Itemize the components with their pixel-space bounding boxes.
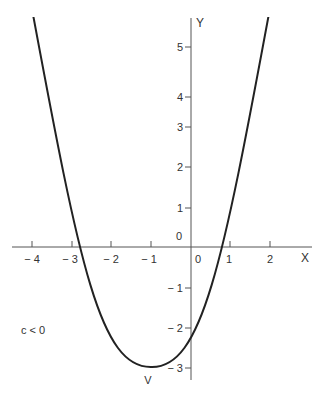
parabola-chart: − 4 − 3 − 2 − 1 1 2 0 5 4 3 2 1 0 − 1 − … — [0, 0, 322, 395]
x-tick-label: − 4 — [24, 253, 40, 265]
y-tick-label: 5 — [177, 41, 183, 53]
y-tick-label: − 2 — [167, 322, 183, 334]
x-tick-label: − 1 — [141, 253, 157, 265]
y-tick-label: 2 — [177, 161, 183, 173]
y-axis-label: Y — [196, 16, 204, 30]
x-ticks — [32, 241, 270, 247]
y-tick-label: 4 — [177, 91, 183, 103]
condition-label: c < 0 — [21, 324, 45, 336]
origin-label-upper: 0 — [176, 230, 182, 242]
y-tick-label: 1 — [177, 202, 183, 214]
x-tick-label: − 2 — [103, 253, 119, 265]
vertex-label: V — [144, 374, 152, 386]
x-tick-label: 1 — [226, 253, 232, 265]
x-axis-label: X — [301, 251, 309, 265]
y-ticks — [185, 47, 191, 368]
y-tick-label: 3 — [177, 121, 183, 133]
x-tick-label: 2 — [267, 253, 273, 265]
y-tick-label: − 3 — [167, 362, 183, 374]
y-tick-label: − 1 — [167, 282, 183, 294]
x-tick-labels: − 4 − 3 − 2 − 1 1 2 0 — [24, 253, 273, 265]
x-tick-label: − 3 — [62, 253, 78, 265]
y-tick-labels: 5 4 3 2 1 0 − 1 − 2 − 3 — [167, 41, 183, 374]
origin-label-lower: 0 — [195, 253, 201, 265]
parabola-curve — [32, 7, 271, 367]
